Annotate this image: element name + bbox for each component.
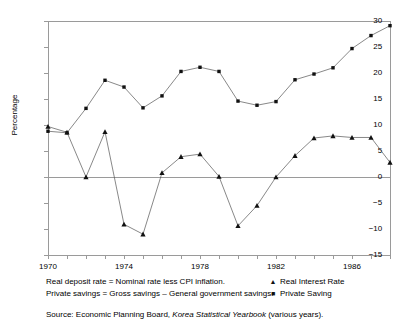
data-point-marker-square — [103, 79, 106, 82]
data-point-marker-square — [179, 70, 182, 73]
x-tick — [67, 255, 68, 259]
x-tick — [200, 255, 201, 259]
data-point-marker-square — [388, 24, 391, 27]
chart-figure: Percentage −15−10−5051015202530 19701974… — [0, 0, 412, 327]
source-italic-title: Korea Statistical Yearbook — [172, 310, 266, 319]
x-tick — [295, 255, 296, 259]
data-point-marker-square — [274, 100, 277, 103]
x-tick — [86, 255, 87, 259]
data-point-marker-triangle — [121, 222, 126, 227]
data-point-marker-square — [217, 70, 220, 73]
x-tick-label: 1974 — [104, 262, 144, 271]
x-tick — [257, 255, 258, 259]
x-tick-label: 1982 — [256, 262, 296, 271]
x-tick — [124, 255, 125, 259]
data-point-marker-square — [236, 99, 239, 102]
x-tick — [219, 255, 220, 259]
data-point-marker-triangle — [140, 232, 145, 237]
legend-item-private-saving: ■ Private Saving — [268, 288, 344, 300]
series-overlay — [48, 21, 390, 255]
footnote-block: Real deposit rate = Nominal rate less CP… — [46, 276, 273, 300]
x-tick — [333, 255, 334, 259]
data-point-marker-square — [369, 34, 372, 37]
data-point-marker-square — [46, 130, 49, 133]
x-tick — [390, 255, 391, 259]
x-tick — [371, 255, 372, 259]
x-tick — [352, 255, 353, 259]
legend-item-real-interest-rate: ▲ Real Interest Rate — [268, 276, 344, 288]
legend-label-real-interest-rate: Real Interest Rate — [280, 276, 344, 288]
data-point-marker-square — [141, 106, 144, 109]
square-marker-icon: ■ — [268, 288, 278, 300]
data-point-marker-triangle — [102, 129, 107, 134]
data-point-marker-square — [331, 66, 334, 69]
x-tick — [238, 255, 239, 259]
plot-area: −15−10−5051015202530 1970197419781982198… — [48, 21, 390, 255]
chart-legend: ▲ Real Interest Rate ■ Private Saving — [268, 276, 344, 300]
right-spine-line — [390, 21, 391, 255]
source-suffix: (various years). — [266, 310, 323, 319]
data-point-marker-square — [160, 94, 163, 97]
legend-label-private-saving: Private Saving — [280, 288, 332, 300]
x-tick — [314, 255, 315, 259]
x-tick — [181, 255, 182, 259]
data-point-marker-square — [255, 104, 258, 107]
series-line-private-saving — [48, 26, 390, 133]
footnote-2: Private savings = Gross savings – Genera… — [46, 288, 273, 300]
data-point-marker-square — [122, 85, 125, 88]
x-tick — [143, 255, 144, 259]
data-point-marker-square — [65, 131, 68, 134]
x-tick — [105, 255, 106, 259]
x-tick-label: 1986 — [332, 262, 372, 271]
source-prefix: Source: Economic Planning Board, — [46, 310, 172, 319]
data-point-marker-square — [198, 66, 201, 69]
data-point-marker-square — [84, 107, 87, 110]
footnote-1: Real deposit rate = Nominal rate less CP… — [46, 276, 273, 288]
y-axis-title: Percentage — [9, 25, 21, 205]
triangle-marker-icon: ▲ — [268, 276, 278, 288]
data-point-marker-triangle — [197, 152, 202, 157]
data-point-marker-square — [312, 72, 315, 75]
x-tick-label: 1970 — [28, 262, 68, 271]
x-tick — [162, 255, 163, 259]
series-line-real-interest-rate — [48, 127, 390, 235]
data-point-marker-square — [293, 78, 296, 81]
x-tick — [276, 255, 277, 259]
data-point-marker-triangle — [83, 174, 88, 179]
x-tick — [48, 255, 49, 259]
data-point-marker-square — [350, 47, 353, 50]
source-line: Source: Economic Planning Board, Korea S… — [46, 309, 323, 320]
data-point-marker-triangle — [254, 203, 259, 208]
x-tick-label: 1978 — [180, 262, 220, 271]
